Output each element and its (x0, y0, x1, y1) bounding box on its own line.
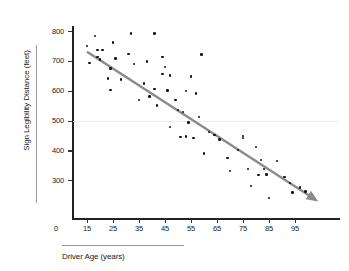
data-point (218, 138, 221, 141)
data-point (250, 185, 253, 188)
data-point (226, 157, 229, 160)
data-point (263, 168, 266, 171)
data-point (112, 41, 115, 44)
data-point (101, 49, 104, 52)
data-point (247, 168, 250, 171)
data-point (257, 174, 260, 177)
data-point (289, 182, 292, 185)
data-point (169, 126, 172, 129)
data-point (107, 77, 110, 80)
data-point (213, 134, 216, 137)
data-point (195, 92, 198, 95)
data-point (127, 53, 130, 56)
data-point (208, 131, 211, 134)
data-point (182, 111, 185, 114)
data-point (164, 66, 167, 69)
data-point (200, 53, 203, 56)
data-point (192, 137, 195, 140)
data-point (179, 136, 182, 139)
sign-legibility-scatter-figure: Sign Legibility Distance (feet) 30040050… (0, 0, 349, 271)
data-point (96, 49, 99, 52)
data-point (143, 82, 146, 85)
data-point (299, 186, 302, 189)
data-point (260, 159, 263, 162)
data-point (109, 67, 112, 70)
data-point (153, 88, 156, 91)
data-point (291, 191, 294, 194)
data-point (190, 75, 193, 78)
data-point (156, 104, 159, 107)
data-point (304, 190, 307, 193)
data-point (255, 146, 258, 149)
data-point (242, 137, 245, 140)
data-point (161, 73, 164, 76)
data-point (86, 45, 89, 48)
data-point (177, 109, 180, 112)
data-point (138, 99, 141, 102)
data-point (185, 135, 188, 138)
data-point (148, 95, 151, 98)
data-point (166, 89, 169, 92)
data-point (94, 35, 97, 38)
data-point (99, 58, 102, 61)
data-point (237, 149, 240, 152)
data-point (133, 63, 136, 66)
data-point (268, 197, 271, 200)
data-point (185, 90, 188, 93)
data-point (283, 176, 286, 179)
data-point (174, 99, 177, 102)
data-point (146, 60, 149, 63)
x-axis-title: Driver Age (years) (62, 252, 125, 261)
data-point (88, 62, 91, 65)
data-point (229, 170, 232, 173)
x-axis-title-rule (62, 245, 184, 246)
data-point (109, 89, 112, 92)
data-point (120, 78, 123, 81)
data-point (187, 121, 190, 124)
data-point (276, 160, 279, 163)
data-point (203, 152, 206, 155)
data-point (198, 116, 201, 119)
data-points-layer (0, 0, 349, 271)
data-point (130, 32, 133, 35)
data-point (169, 74, 172, 77)
data-point (161, 56, 164, 59)
data-point (153, 32, 156, 35)
data-point (265, 173, 268, 176)
data-point (114, 57, 117, 60)
